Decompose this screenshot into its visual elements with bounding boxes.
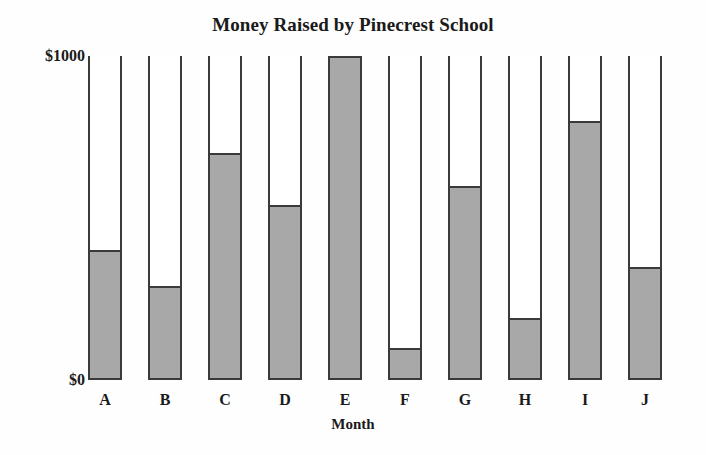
- bar-i: [568, 56, 602, 380]
- bar-fill-a: [88, 250, 122, 380]
- x-axis-tick-label-g: G: [448, 391, 482, 409]
- bar-fill-e: [328, 56, 362, 380]
- x-axis-tick-label-a: A: [88, 391, 122, 409]
- bar-h: [508, 56, 542, 380]
- x-axis-tick-label-h: H: [508, 391, 542, 409]
- x-axis-tick-label-f: F: [388, 391, 422, 409]
- bar-g: [448, 56, 482, 380]
- bar-fill-f: [388, 348, 422, 380]
- bar-fill-i: [568, 121, 602, 380]
- y-axis-tick-label-bottom: $0: [0, 371, 85, 389]
- bar-fill-b: [148, 286, 182, 380]
- x-axis-title: Month: [0, 416, 706, 433]
- bar-fill-d: [268, 205, 302, 380]
- x-axis-tick-label-d: D: [268, 391, 302, 409]
- x-axis-tick-label-e: E: [328, 391, 362, 409]
- bar-fill-h: [508, 318, 542, 380]
- bar-chart: Money Raised by Pinecrest School $1000 $…: [0, 0, 706, 455]
- bar-d: [268, 56, 302, 380]
- bar-fill-c: [208, 153, 242, 380]
- bar-fill-g: [448, 186, 482, 380]
- bar-f: [388, 56, 422, 380]
- bar-c: [208, 56, 242, 380]
- plot-area: $1000 $0 ABCDEFGHIJ Month: [0, 0, 706, 455]
- x-axis-tick-label-c: C: [208, 391, 242, 409]
- x-axis-tick-label-b: B: [148, 391, 182, 409]
- bar-fill-j: [628, 267, 662, 380]
- y-axis-tick-label-top: $1000: [0, 47, 85, 65]
- bar-a: [88, 56, 122, 380]
- bar-j: [628, 56, 662, 380]
- bar-b: [148, 56, 182, 380]
- x-axis-tick-label-i: I: [568, 391, 602, 409]
- x-axis-tick-label-j: J: [628, 391, 662, 409]
- bar-e: [328, 56, 362, 380]
